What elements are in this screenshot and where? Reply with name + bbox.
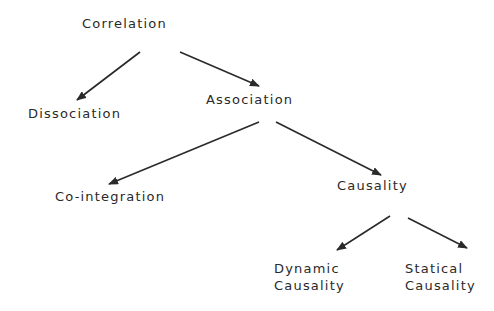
node-dynamic-causality-line2: Causality [274,277,345,294]
node-dissociation: Dissociation [28,105,121,122]
node-statical-causality: Statical Causality [405,260,476,294]
node-statical-causality-line1: Statical [405,260,476,277]
edge-association-to-causality [276,122,381,175]
node-dynamic-causality-line1: Dynamic [274,260,345,277]
node-dynamic-causality: Dynamic Causality [274,260,345,294]
edge-correlation-to-dissociation [77,52,140,100]
node-correlation: Correlation [82,15,167,32]
node-cointegration: Co-integration [55,188,165,205]
edge-causality-to-dynamic [337,216,390,250]
node-causality: Causality [337,177,408,194]
edge-association-to-cointegration [109,122,259,184]
node-statical-causality-line2: Causality [405,277,476,294]
node-association: Association [206,91,293,108]
edge-causality-to-statical [408,218,467,248]
edge-correlation-to-association [180,52,259,86]
diagram-canvas: Correlation Dissociation Association Co-… [0,0,494,311]
